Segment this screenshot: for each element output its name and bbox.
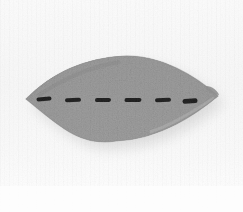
object-illustration <box>0 0 243 212</box>
stitch-dash <box>95 98 111 102</box>
stitch-dash <box>124 98 141 102</box>
photo-frame <box>0 0 243 212</box>
photo-stage <box>0 0 243 212</box>
stitch-dash <box>65 98 81 103</box>
stitch-dash <box>155 98 171 103</box>
caption-strip <box>0 186 243 212</box>
stitch-dash <box>182 98 197 104</box>
